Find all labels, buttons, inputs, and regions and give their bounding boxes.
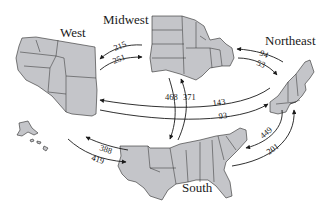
- migration-diagram: West Midwest Northeast South 215 251 94 …: [0, 0, 331, 209]
- west-region-map: [16, 37, 97, 151]
- region-label-midwest: Midwest: [103, 12, 149, 27]
- hawaii-shape: [30, 139, 48, 151]
- flow-midwest-west: 215: [112, 39, 128, 53]
- flow-midwest-northeast: 53: [255, 58, 267, 70]
- northeast-region-map: [270, 60, 314, 114]
- region-label-west: West: [60, 25, 86, 40]
- flow-west-northeast: 93: [218, 110, 228, 121]
- alaska-shape: [17, 121, 38, 136]
- flow-south-midwest: 371: [183, 92, 196, 102]
- flow-northeast-west: 143: [212, 96, 226, 108]
- flow-west-south: 419: [90, 152, 105, 165]
- flow-northeast-south: 449: [258, 125, 274, 141]
- arrow-south-to-midwest: [178, 79, 186, 140]
- region-label-northeast: Northeast: [265, 33, 316, 48]
- arrow-midwest-to-south: [169, 78, 175, 139]
- region-label-south: South: [182, 180, 213, 195]
- midwest-region-map: [150, 16, 234, 80]
- flow-west-midwest: 251: [111, 52, 127, 66]
- arrow-west-to-northeast: [100, 104, 268, 119]
- flow-midwest-south: 468: [165, 92, 178, 102]
